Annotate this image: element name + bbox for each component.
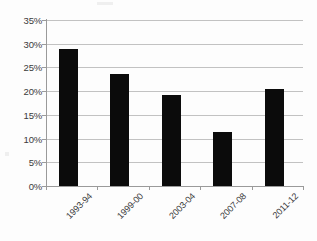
y-axis-label-0: 0% (29, 181, 42, 192)
x-axis-label-2007-08: 2007-08 (218, 191, 248, 221)
scan-artifact (97, 2, 113, 5)
x-axis-label-2011-12: 2011-12 (270, 191, 299, 220)
y-axis-label-5: 5% (29, 157, 42, 168)
bar-2007-08 (213, 132, 232, 186)
x-tick-1 (97, 186, 98, 190)
y-axis-labels: 35% 30% 25% 20% 15% 10% 5% 0% (0, 20, 42, 186)
x-axis-label-2003-04: 2003-04 (167, 191, 197, 221)
y-axis-label-20: 20% (24, 86, 42, 97)
bar-1993-94 (59, 49, 78, 186)
y-axis-label-10: 10% (24, 133, 42, 144)
x-axis-labels: 1993-94 1999-00 2003-04 2007-08 2011-12 (46, 191, 303, 241)
y-axis-label-35: 35% (24, 15, 42, 26)
x-tick-0 (46, 186, 47, 190)
bar-2003-04 (162, 95, 181, 186)
bar-chart: 35% 30% 25% 20% 15% 10% 5% 0% 1993-94 19… (0, 0, 317, 241)
x-tick-4 (252, 186, 253, 190)
y-axis-label-30: 30% (24, 38, 42, 49)
x-axis-label-1999-00: 1999-00 (116, 191, 146, 221)
y-axis-label-15: 15% (24, 109, 42, 120)
x-tick-5 (303, 186, 304, 190)
x-tick-2 (149, 186, 150, 190)
y-axis-label-25: 25% (24, 62, 42, 73)
x-axis-label-1993-94: 1993-94 (64, 191, 94, 221)
bar-series (46, 20, 303, 186)
bar-1999-00 (110, 74, 129, 186)
bar-2011-12 (265, 89, 284, 186)
x-tick-3 (200, 186, 201, 190)
